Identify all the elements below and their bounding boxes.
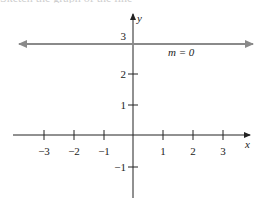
- y-tick-label: −1: [114, 161, 126, 173]
- x-tick-label: 3: [220, 145, 226, 157]
- x-tick-label: −1: [98, 145, 110, 157]
- y-tick-label: 3: [121, 30, 127, 42]
- x-tick-label: 2: [190, 145, 196, 157]
- x-tick-label: 1: [160, 145, 166, 157]
- x-tick-label: −2: [68, 145, 80, 157]
- x-tick-label: −3: [38, 145, 50, 157]
- y-axis-label: y: [136, 12, 142, 24]
- x-axis-label: x: [244, 138, 250, 150]
- y-tick-label: 2: [121, 68, 127, 80]
- coordinate-plane: −3 −2 −1 1 2 3 3 2 1 −1 x y m = 0: [0, 0, 260, 202]
- y-tick-label: 1: [121, 99, 127, 111]
- slope-annotation: m = 0: [168, 46, 195, 58]
